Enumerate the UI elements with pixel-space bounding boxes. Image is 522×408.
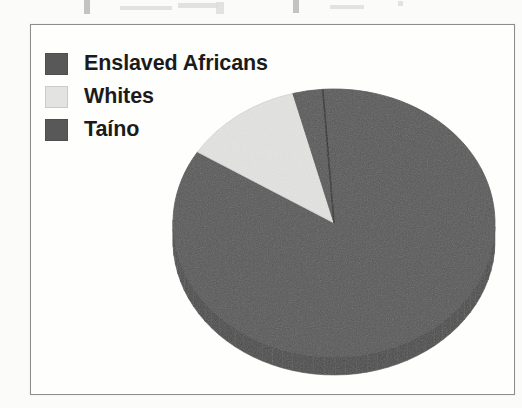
pie-slice-depth (282, 350, 292, 371)
page-top-text-artifacts (0, 0, 522, 22)
pie-slice-depth (272, 347, 282, 368)
artifact-mark-2 (293, 0, 299, 13)
pie-slice-depth (314, 356, 325, 375)
pie-slice-depth (324, 357, 335, 375)
scanned-page: Enslaved Africans Whites Taíno (0, 0, 522, 408)
artifact-smudge-3 (216, 2, 224, 14)
artifact-mark-3 (398, 1, 403, 6)
pie-slice-depth (303, 355, 314, 374)
pie-slice-depth (357, 354, 368, 374)
pie-slice-depth (367, 352, 377, 372)
legend-label-whites: Whites (84, 86, 154, 108)
legend-label-taino: Taíno (84, 119, 139, 141)
pie-slice-depth (346, 356, 357, 375)
legend-swatch-taino (45, 119, 68, 141)
chart-legend: Enslaved Africans Whites Taíno (45, 47, 285, 146)
pie-slice-depth (293, 352, 303, 372)
legend-swatch-enslaved-africans (45, 53, 68, 75)
legend-item-whites[interactable]: Whites (45, 80, 285, 113)
legend-swatch-whites (45, 86, 68, 108)
artifact-smudge-1 (120, 6, 172, 10)
legend-label-enslaved-africans: Enslaved Africans (84, 53, 268, 75)
artifact-mark-1 (84, 0, 90, 14)
legend-item-taino[interactable]: Taíno (45, 113, 285, 146)
pie-slice-depth (335, 357, 346, 375)
artifact-smudge-2 (178, 3, 218, 8)
legend-item-enslaved-africans[interactable]: Enslaved Africans (45, 47, 285, 80)
figure-frame: Enslaved Africans Whites Taíno (30, 24, 515, 395)
artifact-smudge-4 (330, 5, 364, 9)
pie-slice-depth (378, 349, 388, 370)
